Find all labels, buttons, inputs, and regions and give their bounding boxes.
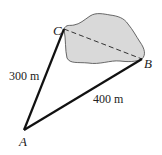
side-ac-length: 300 m [9,69,40,83]
point-b-label: B [144,56,152,71]
point-a-label: A [18,134,27,149]
side-ab-length: 400 m [93,92,124,106]
lake-region [64,14,144,64]
triangle-diagram: C B A 300 m 400 m [0,0,162,155]
side-ab [24,59,142,130]
point-c-label: C [53,23,62,38]
